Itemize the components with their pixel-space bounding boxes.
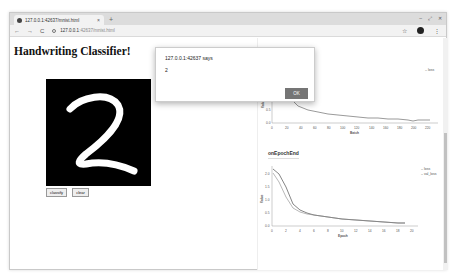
- dialog-title: 127.0.0.1:42637 says: [165, 55, 213, 61]
- svg-text:0.5: 0.5: [266, 108, 271, 112]
- svg-text:20: 20: [410, 229, 414, 233]
- bookmark-star-icon[interactable]: ☆: [402, 27, 407, 34]
- address-bar[interactable]: 127.0.0.1:42637/mnist.html: [52, 28, 114, 33]
- info-icon: [52, 29, 56, 33]
- svg-text:Epoch: Epoch: [338, 234, 348, 238]
- browser-toolbar: ← → C 127.0.0.1:42637/mnist.html ☆ ⋮: [10, 25, 446, 37]
- clear-button[interactable]: clear: [72, 188, 89, 197]
- svg-text:10: 10: [340, 229, 344, 233]
- svg-text:4: 4: [299, 229, 301, 233]
- svg-text:1.0: 1.0: [265, 198, 270, 202]
- svg-text:2.0: 2.0: [265, 172, 270, 176]
- favicon-icon: [17, 18, 22, 23]
- drawing-canvas[interactable]: [46, 79, 151, 186]
- svg-text:– loss: – loss: [421, 167, 430, 171]
- svg-text:200: 200: [411, 126, 417, 130]
- url-path: :42637/mnist.html: [79, 28, 115, 33]
- page-title: Handwriting Classifier!: [14, 45, 131, 57]
- minimize-icon[interactable]: –: [419, 15, 422, 22]
- svg-text:20: 20: [285, 126, 289, 130]
- url-host: 127.0.0.1: [60, 28, 79, 33]
- svg-text:0: 0: [271, 126, 273, 130]
- tab-strip: 127.0.0.1:42637/mnist.html × + – ⤢ ✕: [10, 13, 446, 25]
- svg-text:60: 60: [313, 126, 317, 130]
- svg-text:100: 100: [340, 126, 346, 130]
- visor-scroll-thumb[interactable]: [444, 133, 447, 263]
- epoch-loss-chart: 0.00.51.01.52.0 02468101214161820 Epoch …: [258, 158, 444, 238]
- svg-text:18: 18: [396, 229, 400, 233]
- back-icon[interactable]: ←: [14, 28, 20, 34]
- svg-text:– val_loss: – val_loss: [421, 172, 437, 176]
- ok-button[interactable]: OK: [285, 88, 308, 99]
- classify-button[interactable]: classify: [46, 188, 67, 197]
- page-content: Handwriting Classifier! classify clear 0…: [10, 38, 446, 270]
- forward-icon[interactable]: →: [27, 28, 33, 34]
- svg-text:8: 8: [327, 229, 329, 233]
- svg-text:180: 180: [397, 126, 403, 130]
- svg-text:Value: Value: [260, 194, 264, 203]
- svg-text:Batch: Batch: [350, 131, 359, 135]
- maximize-icon[interactable]: ⤢: [428, 15, 432, 22]
- profile-avatar-icon[interactable]: [417, 27, 424, 34]
- svg-text:0.0: 0.0: [265, 224, 270, 228]
- svg-text:80: 80: [327, 126, 331, 130]
- svg-text:2: 2: [285, 229, 287, 233]
- svg-text:0.0: 0.0: [266, 121, 271, 125]
- svg-text:0.5: 0.5: [265, 211, 270, 215]
- handwritten-digit: [46, 79, 151, 186]
- svg-text:220: 220: [425, 126, 431, 130]
- svg-text:120: 120: [354, 126, 360, 130]
- svg-text:12: 12: [354, 229, 358, 233]
- svg-text:140: 140: [369, 126, 375, 130]
- svg-text:40: 40: [299, 126, 303, 130]
- menu-icon[interactable]: ⋮: [434, 27, 440, 34]
- svg-text:14: 14: [368, 229, 372, 233]
- new-tab-button[interactable]: +: [109, 15, 113, 24]
- tab-title: 127.0.0.1:42637/mnist.html: [25, 18, 97, 23]
- alert-dialog: 127.0.0.1:42637 says 2 OK: [155, 47, 315, 102]
- svg-text:6: 6: [313, 229, 315, 233]
- svg-text:160: 160: [383, 126, 389, 130]
- reload-icon[interactable]: C: [40, 28, 44, 34]
- browser-window: 127.0.0.1:42637/mnist.html × + – ⤢ ✕ ← →…: [9, 12, 447, 270]
- visor-scrollbar[interactable]: [443, 38, 448, 270]
- tab-close-icon[interactable]: ×: [97, 17, 100, 23]
- svg-text:– loss: – loss: [425, 68, 434, 72]
- svg-text:1.5: 1.5: [265, 185, 270, 189]
- close-window-icon[interactable]: ✕: [438, 15, 442, 22]
- window-controls: – ⤢ ✕: [419, 15, 442, 22]
- svg-text:0: 0: [271, 229, 273, 233]
- dialog-message: 2: [165, 67, 168, 73]
- svg-text:16: 16: [382, 229, 386, 233]
- browser-tab[interactable]: 127.0.0.1:42637/mnist.html ×: [14, 15, 104, 25]
